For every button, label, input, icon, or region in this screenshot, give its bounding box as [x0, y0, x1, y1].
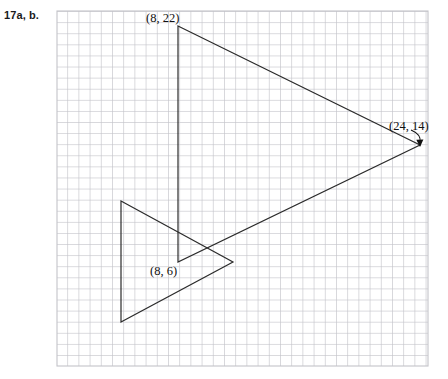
- grid-lines: [57, 11, 428, 366]
- grid-group: [57, 11, 428, 366]
- vertex-label-8-22: (8, 22): [146, 11, 179, 26]
- vertex-label-24-14: (24, 14): [389, 119, 429, 134]
- vertex-label-8-6: (8, 6): [150, 264, 177, 279]
- figure-stage: 17a, b. (8, 22) (24, 14) (8, 6): [0, 0, 448, 379]
- geometry-figure: [0, 0, 448, 379]
